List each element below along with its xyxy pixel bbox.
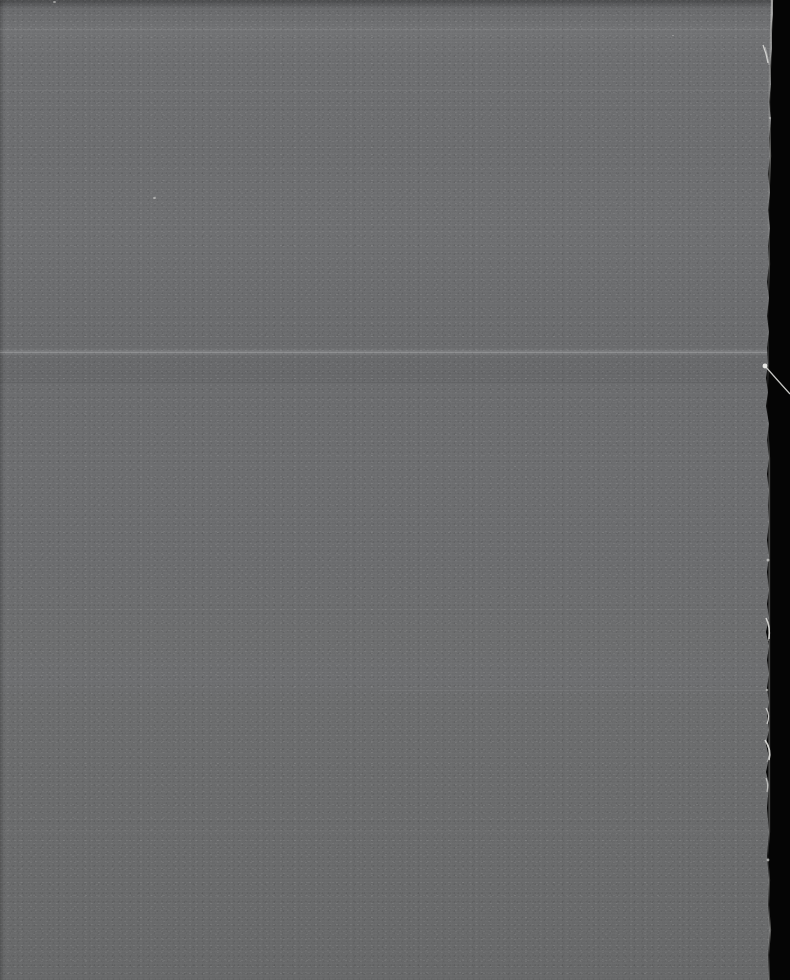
scan-image-root: Blank gray scan with torn right edge [0,0,790,980]
gray-paper-field [0,0,775,980]
